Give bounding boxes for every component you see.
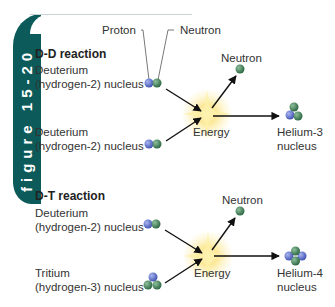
dd-reactant-1-line2: (hydrogen-2) nucleus xyxy=(35,77,144,91)
neutron-leader-line xyxy=(158,30,174,80)
dd-energy-label: Energy xyxy=(193,126,229,138)
dt-helium-4-particles xyxy=(285,247,307,266)
dt-neutron-particle xyxy=(236,207,245,216)
proton-callout-label: Proton xyxy=(102,24,136,36)
proton-leader-line xyxy=(141,30,149,80)
dd-reaction-title: D-D reaction xyxy=(35,47,106,61)
dd-reactant-2-line2: (hydrogen-2) nucleus xyxy=(35,139,144,153)
dt-product-line1: Helium-4 xyxy=(277,266,323,280)
dt-reactant-2-line2: (hydrogen-3) nucleus xyxy=(35,280,144,294)
neutron-callout-label: Neutron xyxy=(180,24,221,36)
dt-reactant-1-line1: Deuterium xyxy=(35,206,88,220)
dd-reactant-1-line1: Deuterium xyxy=(35,63,88,77)
dd-reactant-2-line1: Deuterium xyxy=(35,125,88,139)
dt-product-line2: nucleus xyxy=(277,280,317,294)
dd-helium-3-particles xyxy=(286,103,303,121)
dt-neutron-label: Neutron xyxy=(222,194,263,206)
dt-reactant-1-line2: (hydrogen-2) nucleus xyxy=(35,220,144,234)
dd-deuterium-1-particles xyxy=(145,79,162,88)
dt-deuterium-particles xyxy=(144,220,161,229)
dd-neutron-particle xyxy=(236,65,245,74)
dt-reactant-2-line1: Tritium xyxy=(35,266,70,280)
dd-product-line1: Helium-3 xyxy=(277,125,323,139)
dt-energy-label: Energy xyxy=(194,267,230,279)
dt-reaction-title: D-T reaction xyxy=(35,189,105,203)
dd-product-line2: nucleus xyxy=(277,139,317,153)
dd-deuterium-2-particles xyxy=(145,140,162,149)
dt-tritium-particles xyxy=(144,273,162,290)
dd-neutron-label: Neutron xyxy=(221,52,262,64)
